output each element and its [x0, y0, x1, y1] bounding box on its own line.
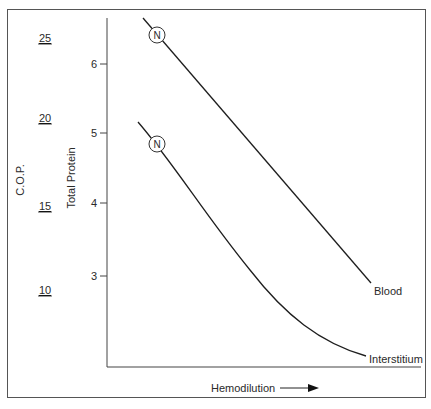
interstitium-curve — [138, 122, 366, 356]
ytick-4: 4 — [91, 197, 97, 209]
ytick-5: 5 — [91, 127, 97, 139]
ytick-6: 6 — [91, 58, 97, 70]
y-tick-labels: 6 5 4 3 — [91, 58, 97, 282]
interstitium-label: Interstitium — [369, 353, 423, 365]
interstitium-marker-label: N — [153, 139, 160, 150]
blood-label: Blood — [374, 285, 402, 297]
blood-marker-label: N — [153, 30, 160, 41]
blood-curve — [143, 18, 371, 283]
protein-axis-title: Total Protein — [65, 147, 77, 208]
blood-normal-marker: N — [149, 27, 165, 43]
chart: 6 5 4 3 25 20 15 10 C.O.P. Total Protein… — [0, 0, 431, 409]
cop-underlines — [38, 44, 52, 296]
y-ticks — [100, 64, 107, 276]
ytick-3: 3 — [91, 270, 97, 282]
cop-25: 25 — [39, 32, 51, 44]
cop-20: 20 — [39, 112, 51, 124]
interstitium-normal-marker: N — [149, 136, 165, 152]
right-arrow-icon — [280, 384, 319, 392]
cop-15: 15 — [39, 200, 51, 212]
x-axis-title: Hemodilution — [211, 382, 275, 394]
cop-10: 10 — [39, 284, 51, 296]
cop-tick-labels: 25 20 15 10 — [39, 32, 51, 296]
cop-axis-title: C.O.P. — [14, 164, 26, 196]
